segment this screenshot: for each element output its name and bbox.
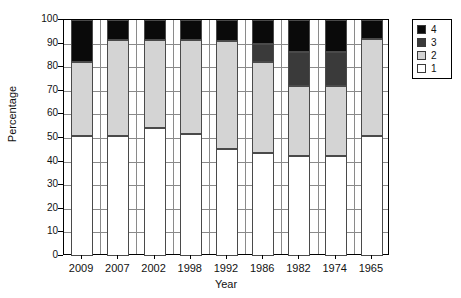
bar-segment-level-4 xyxy=(144,20,166,40)
bar-segment-level-1 xyxy=(361,136,383,256)
bar-segment-level-4 xyxy=(252,20,274,44)
bar-segment-level-4 xyxy=(180,20,202,40)
bar-segment-level-4 xyxy=(361,20,383,39)
y-tick-mark xyxy=(58,231,63,232)
y-tick-mark xyxy=(58,43,63,44)
bar-group xyxy=(71,20,93,254)
bar-group xyxy=(144,20,166,254)
bar-segment-level-2 xyxy=(180,40,202,134)
legend-item: 3 xyxy=(417,36,448,49)
legend-item: 4 xyxy=(417,23,448,36)
legend-label: 3 xyxy=(431,38,437,48)
y-tick-label: 90 xyxy=(47,38,58,48)
bar-segment-level-4 xyxy=(325,20,347,52)
bar-segment-level-1 xyxy=(180,134,202,256)
x-tick-label: 1986 xyxy=(242,262,282,274)
y-axis-ticks: 0102030405060708090100 xyxy=(30,0,58,298)
x-tick-mark xyxy=(117,255,118,259)
y-tick-label: 10 xyxy=(47,226,58,236)
y-tick-label: 50 xyxy=(47,132,58,142)
x-tick-mark xyxy=(154,255,155,259)
plot-area xyxy=(63,19,389,255)
y-tick-mark xyxy=(58,66,63,67)
legend-item: 2 xyxy=(417,49,448,62)
bar-segment-level-2 xyxy=(361,39,383,136)
x-tick-label: 2009 xyxy=(61,262,101,274)
x-tick-label: 2002 xyxy=(134,262,174,274)
bars-layer xyxy=(64,20,388,254)
y-tick-mark xyxy=(58,90,63,91)
bar-segment-level-4 xyxy=(288,20,310,52)
bar-group xyxy=(361,20,383,254)
bar-group xyxy=(288,20,310,254)
x-tick-label: 1965 xyxy=(351,262,391,274)
bar-segment-level-4 xyxy=(71,20,93,62)
legend-item: 1 xyxy=(417,62,448,75)
x-tick-label: 1974 xyxy=(315,262,355,274)
x-tick-mark xyxy=(262,255,263,259)
bar-segment-level-3 xyxy=(288,52,310,86)
x-tick-label: 1982 xyxy=(278,262,318,274)
bar-segment-level-1 xyxy=(252,153,274,256)
y-tick-label: 70 xyxy=(47,85,58,95)
x-tick-mark xyxy=(298,255,299,259)
y-tick-label: 20 xyxy=(47,203,58,213)
legend-label: 2 xyxy=(431,51,437,61)
y-tick-mark xyxy=(58,161,63,162)
y-tick-mark xyxy=(58,255,63,256)
legend: 4321 xyxy=(412,19,452,79)
bar-segment-level-1 xyxy=(216,149,238,256)
x-tick-mark xyxy=(226,255,227,259)
x-tick-label: 1992 xyxy=(206,262,246,274)
legend-label: 1 xyxy=(431,64,437,74)
y-tick-mark xyxy=(58,208,63,209)
y-tick-label: 100 xyxy=(41,14,58,24)
x-tick-mark xyxy=(81,255,82,259)
x-tick-label: 1998 xyxy=(170,262,210,274)
bar-group xyxy=(252,20,274,254)
x-axis-title: Year xyxy=(63,278,389,290)
legend-swatch-icon xyxy=(417,38,426,47)
bar-segment-level-2 xyxy=(288,86,310,156)
bar-segment-level-4 xyxy=(216,20,238,41)
y-tick-label: 40 xyxy=(47,156,58,166)
y-tick-mark xyxy=(58,184,63,185)
legend-swatch-icon xyxy=(417,25,426,34)
bar-segment-level-2 xyxy=(144,40,166,128)
y-tick-mark xyxy=(58,113,63,114)
stacked-bar-chart: Percentage 0102030405060708090100 200920… xyxy=(0,0,461,298)
legend-swatch-icon xyxy=(417,64,426,73)
bar-segment-level-3 xyxy=(252,44,274,63)
bar-segment-level-2 xyxy=(325,86,347,156)
x-tick-mark xyxy=(190,255,191,259)
bar-segment-level-2 xyxy=(252,62,274,153)
bar-group xyxy=(216,20,238,254)
bar-segment-level-4 xyxy=(107,20,129,40)
bar-segment-level-1 xyxy=(325,156,347,256)
y-tick-label: 60 xyxy=(47,108,58,118)
x-tick-label: 2007 xyxy=(97,262,137,274)
bar-segment-level-3 xyxy=(325,52,347,86)
bar-segment-level-1 xyxy=(107,136,129,256)
y-tick-label: 30 xyxy=(47,179,58,189)
bar-group xyxy=(107,20,129,254)
bar-segment-level-1 xyxy=(288,156,310,256)
y-axis-title: Percentage xyxy=(6,54,18,174)
bar-group xyxy=(180,20,202,254)
legend-label: 4 xyxy=(431,25,437,35)
bar-segment-level-1 xyxy=(144,128,166,256)
x-tick-mark xyxy=(335,255,336,259)
x-tick-mark xyxy=(371,255,372,259)
bar-segment-level-2 xyxy=(107,40,129,136)
bar-segment-level-2 xyxy=(71,62,93,136)
y-tick-label: 80 xyxy=(47,61,58,71)
bar-group xyxy=(325,20,347,254)
legend-swatch-icon xyxy=(417,51,426,60)
y-tick-mark xyxy=(58,137,63,138)
y-tick-mark xyxy=(58,19,63,20)
bar-segment-level-2 xyxy=(216,41,238,148)
bar-segment-level-1 xyxy=(71,136,93,256)
